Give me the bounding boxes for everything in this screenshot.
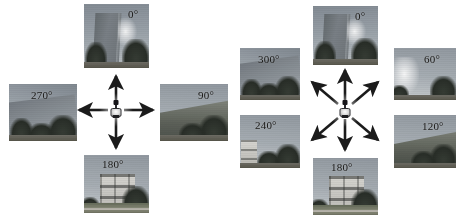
four-direction-capture-panel: 0° 270° 90° [0,0,232,220]
robot-camera-icon [339,100,351,120]
robot-base [113,115,120,118]
robot-base [342,115,349,118]
robot-camera-icon [110,100,122,120]
six-direction-capture-panel: 0° 300° 60° [232,0,463,220]
panorama-capture-figure: 0° 270° 90° [0,0,463,220]
